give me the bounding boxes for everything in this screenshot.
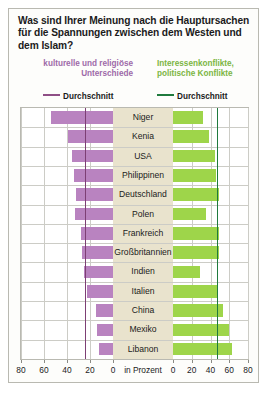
bar-kulturelle-religioese [96,304,113,317]
bar-interessenkonflikte [173,266,200,279]
bar-kulturelle-religioese [82,246,113,259]
legend-label-left: kulturelle und religiöse Unterschiede [37,59,133,78]
axis-tick [67,360,68,363]
chart-row: Deutschland [21,185,248,204]
axis-tick [90,360,91,363]
axis-tick [192,360,193,363]
chart-row: China [21,301,248,320]
bar-interessenkonflikte [173,188,219,201]
chart-row: Polen [21,205,248,224]
country-label: USA [113,147,173,166]
country-label: Indien [113,262,173,281]
country-label: China [113,301,173,320]
average-line-right [217,108,218,359]
axis-tick-label-left: 0 [111,365,116,375]
bar-interessenkonflikte [173,150,215,163]
chart-plot-area: NigerKeniaUSAPhilippinenDeutschlandPolen… [20,107,249,360]
country-label: Großbritannien [113,243,173,262]
axis-tick [211,360,212,363]
axis-tick-label-left: 40 [62,365,71,375]
bar-kulturelle-religioese [74,169,113,182]
bar-kulturelle-religioese [76,188,113,201]
country-label: Kenia [113,127,173,146]
axis-tick [21,360,22,363]
bar-interessenkonflikte [173,343,232,356]
country-label: Mexiko [113,320,173,339]
chart-axis: 806040200020406080in Prozent [20,360,249,382]
bar-kulturelle-religioese [99,343,113,356]
chart-row: Niger [21,108,248,127]
bar-interessenkonflikte [173,304,223,317]
bar-kulturelle-religioese [87,285,113,298]
axis-tick-label-right: 40 [206,365,215,375]
country-label: Deutschland [113,185,173,204]
axis-tick [248,360,249,363]
country-label: Polen [113,205,173,224]
bar-interessenkonflikte [173,285,217,298]
bar-kulturelle-religioese [51,111,113,124]
average-line-left [85,108,86,359]
country-label: Niger [113,108,173,127]
chart-row: Großbritannien [21,243,248,262]
infographic-page: Was sind Ihrer Meinung nach die Haupturs… [0,0,267,399]
legend-label-right: Interessenkonflikte, politische Konflikt… [157,59,257,78]
country-label: Italien [113,282,173,301]
bar-interessenkonflikte [173,324,229,337]
bar-interessenkonflikte [173,111,203,124]
axis-tick-label-left: 20 [85,365,94,375]
chart-row: Libanon [21,340,248,359]
axis-tick [229,360,230,363]
bar-interessenkonflikte [173,246,219,259]
bar-interessenkonflikte [173,227,219,240]
bar-kulturelle-religioese [75,208,113,221]
chart-row: Kenia [21,127,248,146]
bar-kulturelle-religioese [84,266,113,279]
axis-tick-label-right: 0 [171,365,176,375]
chart-card: Was sind Ihrer Meinung nach die Haupturs… [8,8,259,383]
legend-average-right-label: Durchschnitt [177,92,228,101]
chart-row: Philippinen [21,166,248,185]
chart-row: Mexiko [21,320,248,339]
axis-tick [113,360,114,363]
country-label: Libanon [113,340,173,359]
axis-tick-label-right: 20 [187,365,196,375]
chart-row: Frankreich [21,224,248,243]
page-title: Was sind Ihrer Meinung nach die Haupturs… [18,15,250,52]
axis-tick-label-left: 60 [39,365,48,375]
chart-row: Italien [21,282,248,301]
chart-row: Indien [21,262,248,281]
legend-average-right: Durchschnitt [157,92,228,101]
bar-interessenkonflikte [173,130,209,143]
bar-interessenkonflikte [173,169,216,182]
bar-interessenkonflikte [173,208,206,221]
bar-kulturelle-religioese [68,130,113,143]
country-label: Frankreich [113,224,173,243]
legend-average-left-label: Durchschnitt [63,92,114,101]
axis-unit-label: in Prozent [124,365,162,375]
axis-tick [44,360,45,363]
axis-tick-label-left: 80 [16,365,25,375]
country-label: Philippinen [113,166,173,185]
axis-tick-label-right: 60 [225,365,234,375]
legend-average-left: Durchschnitt [43,92,114,101]
legend-line-purple-icon [43,94,60,96]
bar-kulturelle-religioese [97,324,113,337]
legend: kulturelle und religiöse Unterschiede In… [9,59,260,105]
gridline-right [248,108,249,359]
bar-kulturelle-religioese [72,150,113,163]
axis-tick-label-right: 80 [243,365,252,375]
axis-tick [173,360,174,363]
chart-row: USA [21,147,248,166]
legend-line-green-icon [157,94,174,96]
